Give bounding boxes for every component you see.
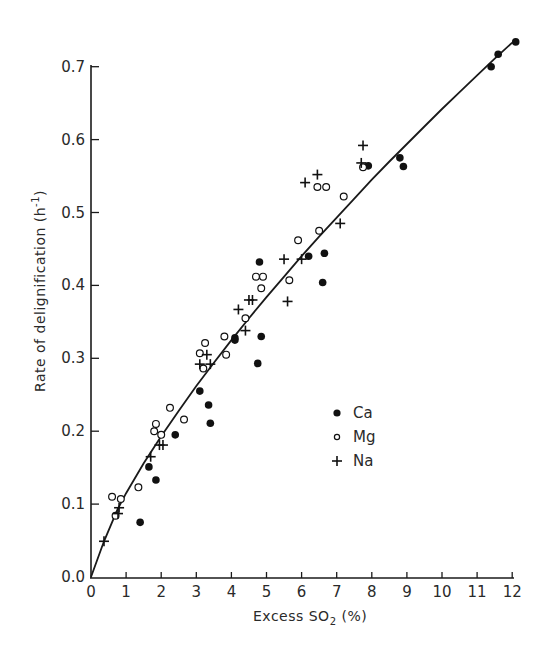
data-point-mg [167, 404, 174, 411]
x-tick-label: 6 [297, 583, 307, 601]
data-point-ca [231, 336, 239, 344]
data-point-na [146, 452, 156, 462]
data-point-mg [196, 350, 203, 357]
data-point-mg [151, 428, 158, 435]
data-point-mg [109, 493, 116, 500]
y-tick-label: 0.3 [61, 349, 85, 367]
data-point-ca [400, 163, 408, 171]
data-point-na [358, 140, 368, 150]
data-point-mg [286, 277, 293, 284]
data-point-ca [319, 279, 327, 287]
legend-label-na: Na [353, 452, 373, 470]
data-point-mg [295, 237, 302, 244]
legend-item-mg: Mg [334, 428, 375, 446]
data-point-ca [171, 431, 179, 439]
data-point-ca [145, 463, 153, 471]
data-point-mg [221, 333, 228, 340]
legend-label-mg: Mg [353, 428, 375, 446]
filled-circle-marker-icon [333, 409, 340, 416]
chart: 0123456789101112 0.00.10.20.30.40.50.60.… [0, 0, 552, 661]
x-tick-label: 4 [227, 583, 237, 601]
x-tick-label: 8 [367, 583, 377, 601]
data-point-na [202, 350, 212, 360]
y-ticks: 0.00.10.20.30.40.50.60.7 [61, 58, 99, 586]
data-point-ca [196, 387, 204, 395]
data-point-mg [242, 315, 249, 322]
data-point-mg [323, 184, 330, 191]
data-point-mg [153, 421, 160, 428]
x-tick-label: 10 [432, 583, 451, 601]
data-point-ca [512, 38, 520, 46]
data-point-mg [135, 484, 142, 491]
data-point-na [300, 178, 310, 188]
x-tick-label: 0 [86, 583, 96, 601]
data-point-na [335, 218, 345, 228]
data-point-ca [136, 519, 144, 527]
x-tick-label: 7 [332, 583, 342, 601]
data-point-mg [253, 273, 260, 280]
y-tick-label: 0.0 [61, 568, 85, 586]
data-point-ca [257, 333, 265, 341]
y-tick-label: 0.2 [61, 422, 85, 440]
data-point-ca [396, 154, 404, 162]
x-axis-label: Excess SO2 (%) [253, 608, 367, 627]
data-point-mg [316, 227, 323, 234]
data-point-ca [321, 250, 329, 258]
data-point-ca [487, 63, 495, 71]
x-tick-label: 2 [156, 583, 166, 601]
legend-label-ca: Ca [353, 404, 373, 422]
data-point-na [233, 304, 243, 314]
x-tick-label: 11 [468, 583, 487, 601]
data-point-mg [158, 431, 165, 438]
data-point-mg [314, 184, 321, 191]
data-point-ca [256, 258, 264, 266]
y-tick-label: 0.5 [61, 204, 85, 222]
data-point-mg [181, 416, 188, 423]
data-point-na [279, 254, 289, 264]
data-point-mg [200, 365, 207, 372]
fit-curve [91, 43, 512, 577]
data-point-na [283, 296, 293, 306]
y-tick-label: 0.1 [61, 495, 85, 513]
data-point-ca [254, 360, 262, 368]
legend: Ca Mg Na [332, 404, 375, 470]
x-tick-label: 9 [402, 583, 412, 601]
data-point-ca [152, 476, 160, 484]
y-tick-label: 0.4 [61, 276, 85, 294]
legend-item-ca: Ca [333, 404, 372, 422]
data-point-na [99, 536, 109, 546]
legend-item-na: Na [332, 452, 373, 470]
y-axis-label: Rate of delignification (h-1) [30, 190, 48, 392]
data-point-mg [258, 285, 265, 292]
data-point-mg [260, 273, 267, 280]
axes [90, 65, 514, 578]
data-point-na [312, 170, 322, 180]
x-ticks: 0123456789101112 [86, 572, 522, 601]
data-points [99, 38, 520, 546]
data-point-mg [202, 340, 209, 347]
data-point-mg [117, 496, 124, 503]
y-tick-label: 0.6 [61, 131, 85, 149]
data-point-ca [207, 419, 215, 427]
y-tick-label: 0.7 [61, 58, 85, 76]
x-tick-label: 12 [503, 583, 522, 601]
x-tick-label: 1 [121, 583, 131, 601]
open-circle-marker-icon [334, 434, 339, 439]
x-tick-label: 5 [262, 583, 272, 601]
x-tick-label: 3 [192, 583, 202, 601]
data-point-mg [223, 351, 230, 358]
data-point-ca [205, 401, 213, 409]
data-point-mg [340, 193, 347, 200]
data-point-ca [494, 51, 502, 59]
data-point-na [114, 503, 124, 513]
